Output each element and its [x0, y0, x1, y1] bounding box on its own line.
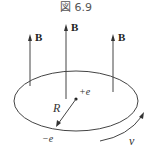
velocity-arc: [100, 116, 142, 141]
figure-title: 図 6.9: [60, 1, 92, 14]
electron-label: −e: [42, 133, 54, 144]
figure-6-9-diagram: 図 6.9 B B B +e R −e v: [0, 0, 153, 158]
radius-label: R: [52, 101, 61, 115]
nucleus-label: +e: [79, 86, 91, 97]
electron-orbit: [14, 71, 138, 131]
field-label-b: B: [71, 21, 79, 33]
arrow-up-icon: [64, 24, 68, 31]
velocity-label: v: [129, 134, 135, 148]
field-label-b: B: [35, 31, 43, 43]
arrowhead-icon: [139, 112, 144, 119]
field-arrow-right: B: [111, 31, 126, 92]
radius-vector: [58, 99, 76, 124]
arrow-up-icon: [111, 34, 115, 41]
field-label-b: B: [118, 31, 126, 43]
arrow-up-icon: [28, 34, 32, 41]
field-arrow-middle: B: [64, 21, 79, 99]
